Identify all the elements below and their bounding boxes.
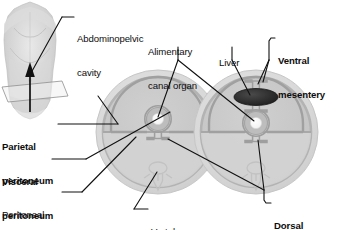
label-alimentary-canal-organ: Alimentary canal organ — [148, 24, 197, 114]
label-alimentary-canal-organ-line2: canal organ — [148, 80, 197, 91]
label-vertebra: Vertebra — [151, 204, 186, 230]
label-abdominopelvic-cavity-line1: Abdominopelvic — [77, 33, 143, 44]
label-liver-line1: Liver — [219, 57, 239, 68]
label-ventral-mesentery-line2: mesentery — [278, 89, 325, 100]
label-visceral-peritoneum-line1: Visceral — [2, 176, 53, 187]
label-peritoneal-cavity: Peritoneal cavity — [2, 187, 44, 230]
figure-root: Abdominopelvic cavity Alimentary canal o… — [0, 0, 342, 230]
human-torso-anterior-view — [2, 2, 68, 119]
label-vertebra-line1: Vertebra — [151, 226, 186, 230]
right-liver — [234, 89, 278, 106]
label-dorsal-mesentery: Dorsal mesentery — [274, 198, 321, 230]
label-parietal-peritoneum-line1: Parietal — [2, 141, 53, 152]
label-peritoneal-cavity-line1: Peritoneal — [2, 209, 44, 220]
label-ventral-mesentery: Ventral mesentery — [278, 33, 325, 123]
leader-ventral-mesentery-bracket — [269, 38, 275, 60]
label-abdominopelvic-cavity-line2: cavity — [77, 67, 143, 78]
label-abdominopelvic-cavity: Abdominopelvic cavity — [77, 11, 143, 101]
label-alimentary-canal-organ-line1: Alimentary — [148, 46, 197, 57]
label-liver: Liver — [219, 35, 239, 91]
label-dorsal-mesentery-line1: Dorsal — [274, 220, 321, 230]
label-ventral-mesentery-line1: Ventral — [278, 55, 325, 66]
